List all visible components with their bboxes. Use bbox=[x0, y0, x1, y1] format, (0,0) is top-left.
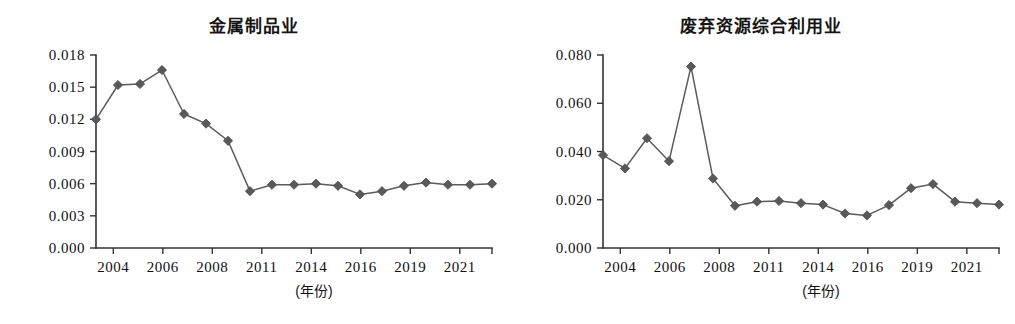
y-tick-label: 0.020 bbox=[556, 192, 592, 208]
data-point-marker bbox=[245, 187, 254, 196]
x-tick-label: 2021 bbox=[444, 259, 476, 275]
y-tick-label: 0.000 bbox=[556, 240, 592, 256]
x-tick-label: 2004 bbox=[604, 259, 636, 275]
data-point-marker bbox=[994, 200, 1003, 209]
x-tick-label: 2014 bbox=[295, 259, 327, 275]
x-tick-label: 2011 bbox=[246, 259, 277, 275]
data-point-marker bbox=[443, 180, 452, 189]
data-point-marker bbox=[399, 181, 408, 190]
x-axis-caption: (年份) bbox=[802, 283, 839, 299]
data-point-marker bbox=[157, 65, 166, 74]
x-tick-label: 2008 bbox=[703, 259, 735, 275]
data-point-marker bbox=[267, 180, 276, 189]
y-tick-label: 0.000 bbox=[49, 240, 85, 256]
line-chart-right: 0.0000.0200.0400.0600.080200420062008201… bbox=[507, 0, 1014, 324]
chart-panel-right: 废弃资源综合利用业 0.0000.0200.0400.0600.08020042… bbox=[507, 0, 1014, 324]
y-tick-label: 0.003 bbox=[49, 208, 85, 224]
y-tick-label: 0.080 bbox=[556, 47, 592, 63]
data-point-marker bbox=[421, 178, 430, 187]
x-tick-label: 2006 bbox=[147, 259, 179, 275]
figure-container: 金属制品业 0.0000.0030.0060.0090.0120.0150.01… bbox=[0, 0, 1015, 324]
data-point-marker bbox=[972, 199, 981, 208]
data-point-marker bbox=[686, 62, 695, 71]
data-point-marker bbox=[179, 109, 188, 118]
y-tick-label: 0.006 bbox=[49, 176, 85, 192]
y-tick-label: 0.040 bbox=[556, 144, 592, 160]
x-tick-label: 2019 bbox=[394, 259, 426, 275]
data-point-marker bbox=[465, 180, 474, 189]
data-point-marker bbox=[818, 200, 827, 209]
x-tick-label: 2019 bbox=[901, 259, 933, 275]
y-tick-label: 0.009 bbox=[49, 144, 85, 160]
y-tick-label: 0.060 bbox=[556, 95, 592, 111]
y-tick-label: 0.012 bbox=[49, 111, 85, 127]
data-point-marker bbox=[377, 187, 386, 196]
data-point-marker bbox=[311, 179, 320, 188]
data-point-marker bbox=[113, 80, 122, 89]
x-tick-label: 2021 bbox=[951, 259, 983, 275]
data-point-marker bbox=[355, 190, 364, 199]
data-point-marker bbox=[796, 199, 805, 208]
data-point-marker bbox=[752, 197, 761, 206]
data-point-marker bbox=[862, 211, 871, 220]
line-chart-left: 0.0000.0030.0060.0090.0120.0150.01820042… bbox=[0, 0, 507, 324]
data-point-marker bbox=[487, 179, 496, 188]
x-tick-label: 2011 bbox=[753, 259, 784, 275]
data-point-marker bbox=[840, 209, 849, 218]
chart-panel-left: 金属制品业 0.0000.0030.0060.0090.0120.0150.01… bbox=[0, 0, 507, 324]
x-tick-label: 2014 bbox=[802, 259, 834, 275]
data-point-marker bbox=[774, 196, 783, 205]
series-line bbox=[96, 70, 492, 194]
data-point-marker bbox=[333, 181, 342, 190]
y-tick-label: 0.018 bbox=[49, 47, 85, 63]
x-tick-label: 2016 bbox=[345, 259, 377, 275]
x-axis-caption: (年份) bbox=[295, 283, 332, 299]
series-line bbox=[603, 67, 999, 216]
x-tick-label: 2004 bbox=[97, 259, 129, 275]
x-tick-label: 2006 bbox=[654, 259, 686, 275]
data-point-marker bbox=[135, 79, 144, 88]
y-tick-label: 0.015 bbox=[49, 79, 85, 95]
data-point-marker bbox=[91, 115, 100, 124]
data-point-marker bbox=[289, 180, 298, 189]
x-tick-label: 2016 bbox=[852, 259, 884, 275]
x-tick-label: 2008 bbox=[196, 259, 228, 275]
